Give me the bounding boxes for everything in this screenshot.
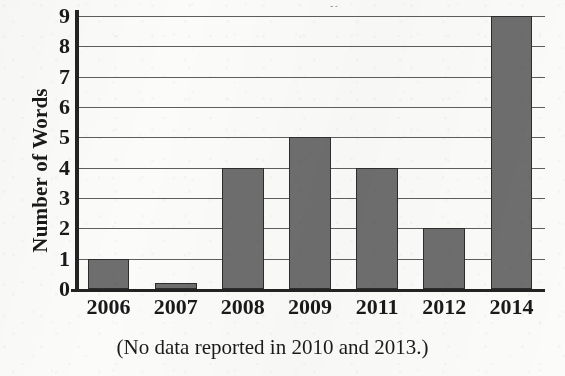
x-axis-tick-label: 2006: [87, 296, 131, 318]
y-axis-tick-label: 7: [44, 66, 70, 88]
bar: [356, 168, 398, 289]
chart-caption: (No data reported in 2010 and 2013.): [0, 337, 545, 358]
y-axis-tick-label: 5: [44, 126, 70, 148]
x-axis-tick-label: 2008: [221, 296, 265, 318]
x-axis-tick-label-group: 2006200720082009201120122014: [75, 296, 545, 326]
y-axis-tick-label: 4: [44, 157, 70, 179]
x-axis-tick-label: 2009: [288, 296, 332, 318]
x-axis-tick-label: 2012: [422, 296, 466, 318]
bar: [289, 137, 331, 289]
bar: [423, 228, 465, 289]
cropped-title-remnant: y: [330, 0, 390, 7]
y-axis-tick-label: 0: [44, 278, 70, 300]
x-axis-tick-label: 2007: [154, 296, 198, 318]
x-axis-spine: [71, 289, 545, 292]
bar: [491, 16, 533, 289]
plot-area: [75, 16, 545, 289]
y-axis-tick-label: 8: [44, 35, 70, 57]
y-axis-tick-label: 3: [44, 187, 70, 209]
y-axis-tick-label: 6: [44, 96, 70, 118]
y-axis-tick-label: 9: [44, 5, 70, 27]
y-axis-tick-label: 2: [44, 217, 70, 239]
bar: [88, 259, 130, 289]
x-axis-tick-label: 2014: [489, 296, 533, 318]
bar-group: [75, 16, 545, 289]
bar: [222, 168, 264, 289]
x-axis-tick-label: 2011: [356, 296, 399, 318]
y-axis-tick-label-group: 0123456789: [44, 12, 70, 302]
y-axis-spine: [75, 10, 79, 289]
y-axis-tick-label: 1: [44, 248, 70, 270]
bar-chart-figure: y Number of Words 0123456789 20062007200…: [0, 0, 565, 376]
